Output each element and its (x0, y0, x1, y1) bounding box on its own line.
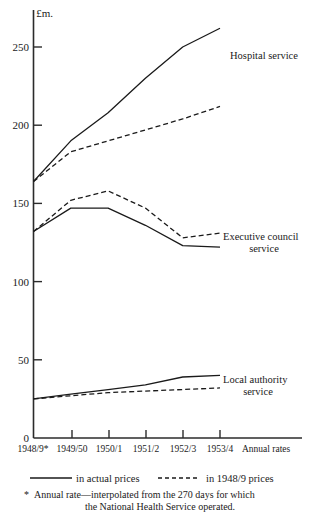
series-line-5 (34, 388, 221, 399)
series-layer (34, 28, 221, 399)
footnote-line-1: Annual rate—interpolated from the 270 da… (34, 489, 255, 500)
y-tick-100: 100 (13, 276, 43, 288)
y-tick-200: 200 (13, 119, 43, 131)
legend-label-actual-prices: in actual prices (76, 473, 140, 484)
y-axis-unit-label: £m. (36, 7, 53, 19)
series-line-1 (34, 106, 221, 181)
y-tick-label-150: 150 (13, 197, 30, 209)
x-axis-ticks (72, 430, 220, 438)
y-tick-label-200: 200 (13, 119, 30, 131)
y-tick-label-0: 0 (24, 432, 30, 444)
annotation-local-authority-line1: Local authority (223, 374, 288, 385)
annotation-executive-council-line2: service (249, 243, 279, 254)
annotation-hospital-service: Hospital service (230, 50, 298, 61)
x-tick-label-1953-4: 1953/4 (207, 444, 234, 454)
series-line-2 (34, 208, 221, 247)
annotation-local-authority-line2: service (243, 386, 273, 397)
annotation-executive-council-line1: Executive council (223, 231, 299, 242)
y-tick-0: 0 (24, 432, 30, 444)
nhs-expenditure-line-chart: £m. 250 200 150 100 50 (0, 0, 310, 522)
x-tick-label-1951-2: 1951/2 (133, 444, 160, 454)
x-tick-label-1949-50: 1949/50 (56, 444, 87, 454)
y-tick-50: 50 (18, 354, 42, 366)
y-tick-label-50: 50 (18, 354, 30, 366)
y-tick-250: 250 (13, 41, 43, 53)
chart-footnote: * Annual rate—interpolated from the 270 … (24, 489, 255, 512)
x-axis-labels: 1948/9* 1949/50 1950/1 1951/2 1952/3 195… (17, 444, 290, 454)
x-tick-label-1948-9: 1948/9* (17, 444, 48, 454)
y-axis-ticks: 250 200 150 100 50 0 (13, 41, 43, 444)
footnote-marker: * (24, 489, 29, 500)
x-axis-end-label: Annual rates (242, 444, 291, 454)
series-annotations: Hospital service Executive council servi… (223, 50, 299, 397)
y-tick-label-100: 100 (13, 276, 30, 288)
x-tick-label-1952-3: 1952/3 (170, 444, 197, 454)
footnote-line-2: the National Health Service operated. (85, 501, 235, 512)
chart-page: £m. 250 200 150 100 50 (0, 0, 310, 522)
chart-legend: in actual prices in 1948/9 prices (30, 473, 274, 484)
x-tick-label-1950-1: 1950/1 (96, 444, 123, 454)
legend-label-1948-9-prices: in 1948/9 prices (206, 473, 274, 484)
series-line-4 (34, 375, 221, 398)
y-tick-label-250: 250 (13, 41, 30, 53)
y-tick-150: 150 (13, 197, 43, 209)
